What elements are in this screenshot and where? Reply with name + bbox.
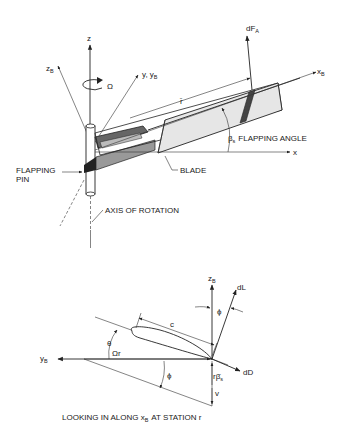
omega-label: Ω	[107, 82, 113, 91]
zB-extension	[60, 180, 84, 226]
radius-label: r̄	[179, 97, 183, 106]
airfoil	[131, 327, 212, 359]
xB-axis-label: xB	[317, 67, 325, 77]
blade-label: BLADE	[180, 166, 206, 175]
v-label: v	[215, 389, 219, 398]
lift-label: dL	[237, 283, 246, 292]
x-axis-label: x	[293, 148, 297, 157]
lift-arrow	[212, 290, 236, 359]
zB-label-bottom: zB	[208, 274, 216, 284]
chord-label: c	[170, 320, 174, 329]
flapping-pin-label-1: FLAPPING	[16, 166, 56, 175]
omega-r-label: Ωr	[112, 349, 121, 358]
yB-label-bottom: yB	[40, 354, 48, 364]
rotor-blade-diagram: z zB y, yB Ω AXIS OF ROTATION	[0, 0, 344, 437]
force-label: dFA	[246, 24, 259, 34]
r-beta-label: rβ̇s	[213, 372, 223, 382]
flapping-pin-label-2: PIN	[16, 175, 30, 184]
blade-pointer	[165, 156, 178, 170]
z-axis-label: z	[87, 34, 91, 43]
caption: LOOKING IN ALONG xBAT STATION r	[62, 413, 202, 423]
zB-axis-label: zB	[46, 64, 54, 74]
zB-axis	[58, 66, 90, 140]
phi-bottom-arc	[160, 361, 164, 388]
phi-bottom-label: ϕ	[167, 371, 172, 380]
inflow-line	[84, 359, 212, 406]
bottom-figure: zB dL ϕ c θ yB Ωr dD rβ	[40, 274, 253, 423]
force-arrow	[247, 36, 252, 90]
flapping-angle-label: βsFLAPPING ANGLE	[228, 134, 307, 144]
drag-arrow	[212, 359, 240, 371]
axis-of-rotation-label: AXIS OF ROTATION	[105, 206, 179, 215]
rotation-arrowhead-icon	[97, 77, 103, 84]
theta-label: θ	[107, 339, 112, 348]
phi-top-label: ϕ	[217, 307, 222, 316]
top-figure: z zB y, yB Ω AXIS OF ROTATION	[16, 24, 325, 248]
y-axis-label: y, yB	[142, 70, 158, 80]
drag-label: dD	[243, 368, 253, 377]
